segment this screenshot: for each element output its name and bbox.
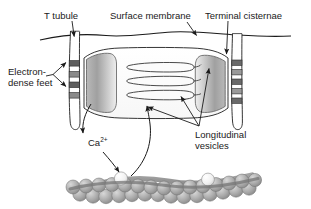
calcium-symbol: Ca	[88, 137, 100, 148]
label-terminal-cisternae: Terminal cisternae	[205, 10, 282, 21]
leader-surface-membrane	[187, 22, 197, 36]
leader-terminal-cisternae	[227, 21, 229, 54]
label-longitudinal-vesicles-line2: vesicles	[195, 140, 229, 151]
calcium-charge: 2+	[100, 136, 107, 143]
terminal-cisterna-left	[87, 53, 117, 112]
terminal-cisterna-right	[195, 55, 225, 112]
label-calcium-ion: Ca2+	[88, 137, 108, 148]
calcium-binding-arrow	[103, 152, 119, 172]
label-t-tubule: T tubule	[44, 10, 78, 21]
diagram-canvas	[0, 0, 311, 209]
label-electron-dense-feet-line1: Electron-	[8, 66, 46, 77]
label-surface-membrane: Surface membrane	[110, 10, 191, 21]
longitudinal-vesicles	[127, 62, 201, 99]
myofilament	[66, 172, 262, 204]
label-electron-dense-feet-line2: dense feet	[8, 77, 52, 88]
t-tubule-left	[69, 31, 80, 130]
sr-t-tubule-diagram: T tubule Surface membrane Terminal ciste…	[0, 0, 311, 209]
label-longitudinal-vesicles-line1: Longitudinal	[195, 129, 246, 140]
